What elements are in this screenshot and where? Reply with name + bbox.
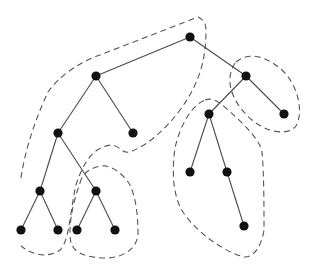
tree-node-K	[222, 167, 231, 176]
edge-A-C	[190, 37, 246, 76]
group-F-J-K-P-outline	[173, 99, 264, 257]
tree-node-P	[239, 221, 248, 230]
edge-C-G	[246, 76, 284, 114]
edge-H-M	[40, 191, 58, 230]
edge-F-J	[190, 114, 209, 172]
group-outlines	[21, 17, 300, 258]
tree-node-J	[185, 167, 194, 176]
edge-H-L	[21, 191, 40, 230]
tree-node-O	[110, 225, 119, 234]
tree-node-E	[128, 128, 137, 137]
tree-node-G	[279, 109, 288, 118]
edge-B-D	[58, 76, 96, 133]
tree-diagram	[0, 0, 324, 275]
tree-node-M	[53, 225, 62, 234]
edge-A-B	[96, 37, 190, 76]
tree-node-A	[185, 32, 194, 41]
edge-F-K	[209, 114, 227, 172]
tree-node-I	[91, 186, 100, 195]
tree-node-H	[35, 186, 44, 195]
edge-I-O	[96, 191, 115, 230]
tree-node-B	[91, 71, 100, 80]
edge-B-E	[96, 76, 133, 133]
tree-nodes	[16, 32, 288, 234]
edge-D-H	[40, 133, 58, 191]
edge-K-P	[227, 172, 244, 226]
group-I-N-O-outline	[70, 166, 138, 258]
edge-C-F	[209, 76, 246, 114]
tree-node-D	[53, 128, 62, 137]
edge-I-N	[77, 191, 96, 230]
tree-node-C	[241, 71, 250, 80]
tree-node-L	[16, 225, 25, 234]
tree-node-F	[204, 109, 213, 118]
tree-node-N	[72, 225, 81, 234]
